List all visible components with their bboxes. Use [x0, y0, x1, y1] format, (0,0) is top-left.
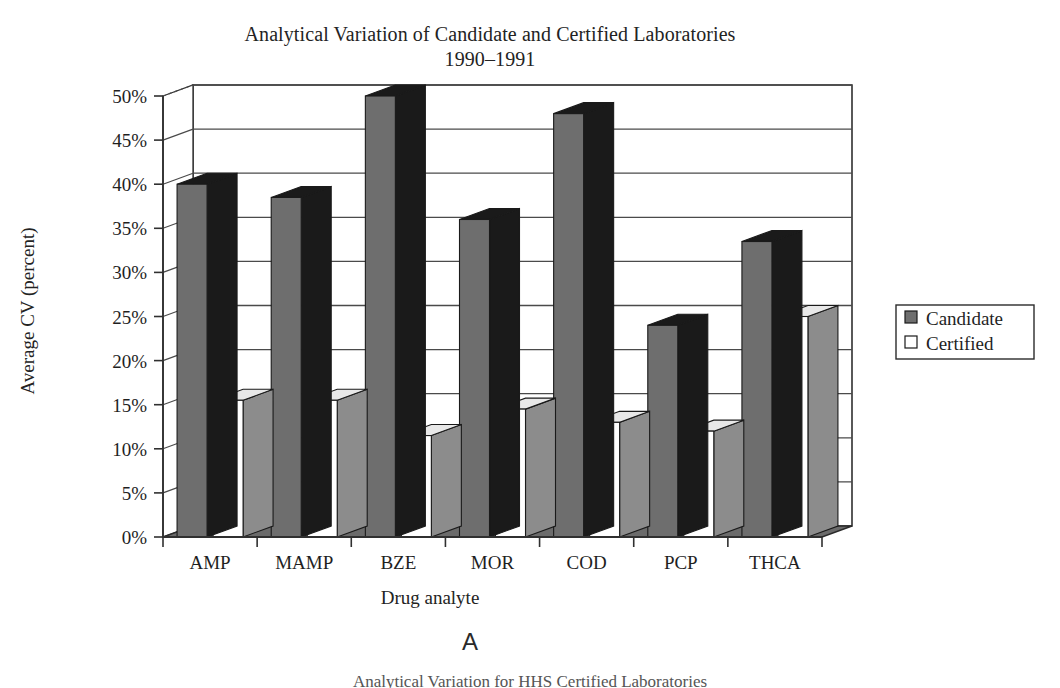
y-tick-label: 25%: [112, 307, 147, 328]
x-category-label: PCP: [664, 552, 698, 573]
y-tick-label: 15%: [112, 395, 147, 416]
x-category-label: MOR: [471, 552, 515, 573]
bar-front-face: [177, 184, 207, 537]
bar-front-face: [460, 219, 490, 537]
bar-candidate: [742, 231, 802, 537]
legend-label-certified: Certified: [926, 333, 994, 354]
y-tick-label: 50%: [112, 86, 147, 107]
legend-label-candidate: Candidate: [926, 308, 1003, 329]
y-tick-label: 5%: [122, 483, 148, 504]
bar-side-face: [526, 398, 556, 537]
panel-label: A: [430, 628, 510, 656]
y-tick-label: 35%: [112, 218, 147, 239]
bar-side-face: [678, 314, 708, 537]
bar-candidate: [460, 208, 520, 537]
bar-side-face: [714, 420, 744, 537]
bar-side-face: [243, 389, 273, 537]
bar-candidate: [365, 85, 425, 537]
next-figure-caption: Analytical Variation for HHS Certified L…: [230, 672, 830, 688]
bar-front-face: [271, 197, 301, 537]
bar-candidate: [648, 314, 708, 537]
bar-side-face: [395, 85, 425, 537]
bar-candidate: [177, 173, 237, 537]
x-category-label: COD: [567, 552, 607, 573]
bar-side-face: [620, 411, 650, 537]
bar-side-face: [207, 173, 237, 537]
bar-front-face: [742, 242, 772, 537]
bar-candidate: [271, 186, 331, 537]
legend-swatch-certified: [905, 336, 917, 348]
bar-side-face: [808, 306, 838, 538]
x-category-label: BZE: [380, 552, 416, 573]
y-tick-label: 30%: [112, 262, 147, 283]
bar-front-face: [554, 114, 584, 537]
bar-front-face: [365, 96, 395, 537]
x-category-label: MAMP: [275, 552, 333, 573]
legend-swatch-candidate: [905, 311, 917, 323]
y-tick-label: 0%: [122, 527, 148, 548]
y-tick-label: 20%: [112, 351, 147, 372]
bar-candidate: [554, 103, 614, 537]
y-tick-label: 10%: [112, 439, 147, 460]
y-tick-label: 40%: [112, 174, 147, 195]
bar-side-face: [337, 389, 367, 537]
y-tick-label: 45%: [112, 130, 147, 151]
bar-side-face: [772, 231, 802, 537]
bar-side-face: [584, 103, 614, 537]
bar-chart-plot: 0%5%10%15%20%25%30%35%40%45%50%AMPMAMPBZ…: [0, 0, 1060, 688]
bar-side-face: [301, 186, 331, 537]
x-category-label: THCA: [749, 552, 801, 573]
bar-side-face: [431, 425, 461, 537]
bar-front-face: [648, 325, 678, 537]
bar-side-face: [490, 208, 520, 537]
figure-panel-a: Analytical Variation of Candidate and Ce…: [0, 0, 1060, 688]
x-category-label: AMP: [189, 552, 230, 573]
